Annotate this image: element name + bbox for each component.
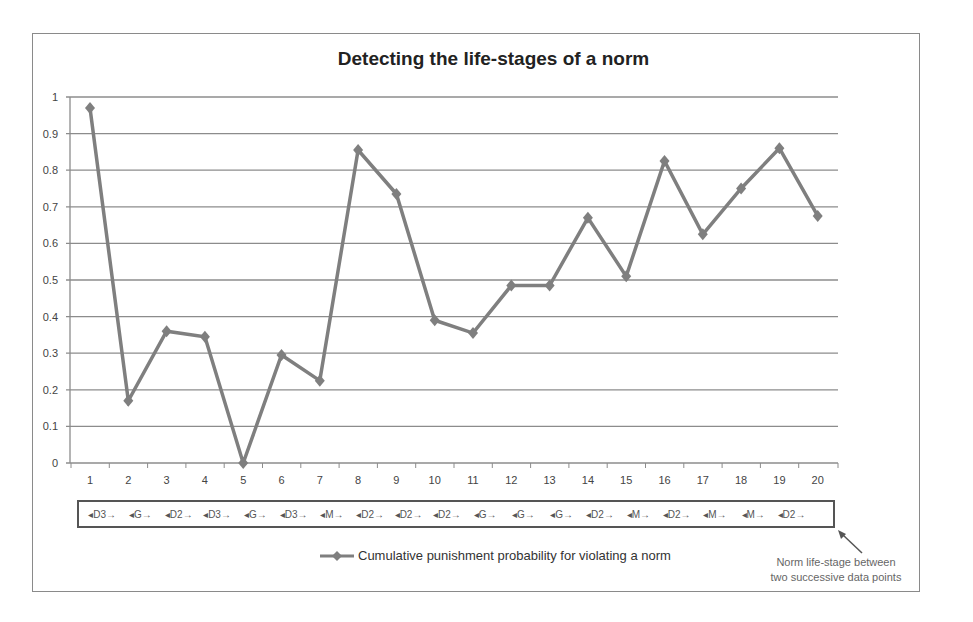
x-tick-label: 19 — [773, 474, 785, 486]
y-tick-label: 0 — [52, 457, 58, 469]
life-stage-label: ◂D2→ — [389, 509, 427, 520]
life-stage-label: ◂D2→ — [581, 509, 619, 520]
y-tick-label: 1 — [52, 91, 58, 103]
x-tick-label: 2 — [125, 474, 131, 486]
y-tick-label: 0.8 — [43, 164, 58, 176]
x-tick-label: 12 — [505, 474, 517, 486]
x-tick-label: 18 — [735, 474, 747, 486]
life-stage-label: ◂D2→ — [351, 509, 389, 520]
legend: Cumulative punishment probability for vi… — [320, 548, 671, 563]
legend-label: Cumulative punishment probability for vi… — [358, 548, 671, 563]
y-tick-label: 0.6 — [43, 237, 58, 249]
x-tick-label: 15 — [620, 474, 632, 486]
life-stage-label: ◂G→ — [121, 509, 159, 520]
x-tick-label: 5 — [240, 474, 246, 486]
life-stage-label: ◂G→ — [466, 509, 504, 520]
life-stage-strip: ◂D3→◂G→◂D2→◂D3→◂G→◂D3→◂M→◂D2→◂D2→◂D2→◂G→… — [77, 500, 835, 528]
data-point-marker — [85, 102, 95, 114]
life-stage-label: ◂D2→ — [160, 509, 198, 520]
y-axis-ticks: 00.10.20.30.40.50.60.70.80.91 — [43, 91, 58, 469]
x-tick-label: 6 — [278, 474, 284, 486]
x-tick-label: 17 — [697, 474, 709, 486]
life-stage-label: ◂G→ — [236, 509, 274, 520]
data-point-marker — [200, 331, 210, 343]
x-tick-label: 13 — [543, 474, 555, 486]
y-tick-label: 0.9 — [43, 128, 58, 140]
x-tick-label: 3 — [164, 474, 170, 486]
plot-area: 00.10.20.30.40.50.60.70.80.91 1234567891… — [0, 0, 973, 622]
x-tick-label: 11 — [467, 474, 478, 486]
x-tick-label: 1 — [87, 474, 93, 486]
gridlines — [66, 97, 838, 463]
x-tick-label: 7 — [317, 474, 323, 486]
stage-annotation: Norm life-stage between two successive d… — [756, 555, 916, 585]
data-series — [85, 102, 823, 469]
y-tick-label: 0.4 — [43, 311, 58, 323]
y-tick-label: 0.5 — [43, 274, 58, 286]
y-tick-label: 0.3 — [43, 347, 58, 359]
life-stage-label: ◂D3→ — [83, 509, 121, 520]
x-tick-label: 9 — [393, 474, 399, 486]
life-stage-label: ◂M→ — [619, 509, 657, 520]
annotation-line-1: Norm life-stage between — [756, 555, 916, 570]
annotation-line-2: two successive data points — [756, 570, 916, 585]
life-stage-label: ◂D2→ — [772, 509, 810, 520]
life-stage-label: ◂M→ — [734, 509, 772, 520]
life-stage-label: ◂D3→ — [198, 509, 236, 520]
x-tick-label: 10 — [429, 474, 441, 486]
legend-diamond-icon — [320, 549, 354, 563]
x-tick-label: 8 — [355, 474, 361, 486]
x-tick-label: 14 — [582, 474, 594, 486]
y-tick-label: 0.1 — [43, 420, 58, 432]
annotation-arrow — [843, 535, 862, 553]
x-tick-label: 16 — [658, 474, 670, 486]
y-tick-label: 0.7 — [43, 201, 58, 213]
life-stage-label: ◂D2→ — [657, 509, 695, 520]
life-stage-label: ◂D3→ — [274, 509, 312, 520]
x-tick-label: 4 — [202, 474, 208, 486]
life-stage-label: ◂D2→ — [428, 509, 466, 520]
life-stage-label: ◂G→ — [504, 509, 542, 520]
life-stage-label: ◂M→ — [696, 509, 734, 520]
y-tick-label: 0.2 — [43, 384, 58, 396]
x-axis-ticks: 1234567891011121314151617181920 — [71, 463, 838, 486]
x-tick-label: 20 — [812, 474, 824, 486]
life-stage-label: ◂M→ — [313, 509, 351, 520]
life-stage-label: ◂G→ — [543, 509, 581, 520]
data-point-marker — [238, 457, 248, 469]
